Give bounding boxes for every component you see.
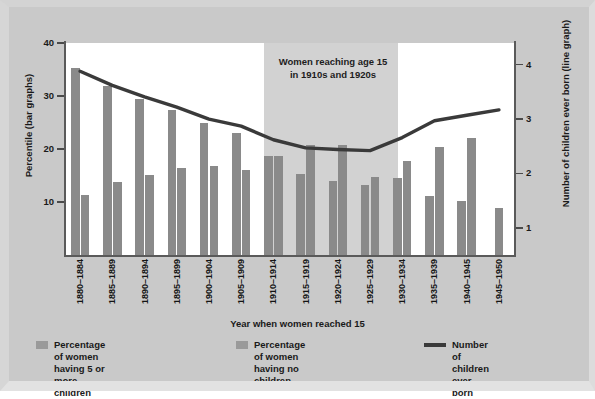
x-axis-tick-label: 1920–1924: [333, 259, 343, 304]
legend-label: Percentage of women having 5 or more chi…: [54, 339, 105, 399]
x-axis-tick: 1900–1904: [203, 259, 215, 311]
x-axis-tick: 1890–1894: [139, 259, 151, 311]
y-axis-right-line: [514, 41, 516, 257]
y-axis-right-tick-label: 2: [526, 167, 531, 178]
x-axis-tick: 1925–1929: [364, 259, 376, 311]
x-axis-tick-label: 1890–1894: [140, 259, 150, 304]
y-axis-left-title: Percentile (bar graphs): [23, 36, 34, 216]
x-axis-tick-label: 1880–1884: [75, 259, 85, 304]
y-axis-left-tick: [57, 148, 64, 150]
y-axis-right-tick-label: 1: [526, 222, 531, 233]
y-axis-left-tick-label: 30: [32, 90, 54, 101]
x-axis-tick-label: 1925–1929: [365, 259, 375, 304]
y-axis-right-tick: [516, 173, 523, 175]
line-swatch-icon: [424, 343, 446, 347]
x-axis-tick: 1940–1945: [461, 259, 473, 311]
bar-swatch-icon: [236, 341, 248, 349]
y-axis-left-tick: [57, 201, 64, 203]
x-axis-tick-label: 1940–1945: [462, 259, 472, 304]
x-axis-tick-label: 1905–1909: [236, 259, 246, 304]
chart-legend: Percentage of women having 5 or more chi…: [36, 339, 566, 373]
x-axis-tick: 1930–1934: [396, 259, 408, 311]
x-axis-tick: 1945–1950: [493, 259, 505, 311]
x-axis-title: Year when women reached 15: [0, 318, 595, 329]
y-axis-left-tick-label: 10: [32, 196, 54, 207]
y-axis-left-line: [64, 41, 66, 257]
y-axis-right-tick: [516, 227, 523, 229]
x-axis-tick: 1935–1939: [428, 259, 440, 311]
x-axis-tick: 1880–1884: [74, 259, 86, 311]
y-axis-right-tick: [516, 64, 523, 66]
x-axis-tick-label: 1895–1899: [172, 259, 182, 304]
x-axis-tick: 1910–1914: [267, 259, 279, 311]
x-axis-line: [64, 255, 516, 257]
x-axis-tick-label: 1885–1889: [107, 259, 117, 304]
x-axis-tick-label: 1945–1950: [494, 259, 504, 304]
bar-swatch-icon: [36, 341, 48, 349]
y-axis-left-tick-label: 40: [32, 37, 54, 48]
x-axis-tick: 1915–1919: [300, 259, 312, 311]
line-series-children-ever-born: [64, 43, 515, 255]
x-axis-tick-label: 1900–1904: [204, 259, 214, 304]
y-axis-left-tick-label: 20: [32, 143, 54, 154]
x-axis-tick: 1885–1889: [106, 259, 118, 311]
legend-label: Percentage of women having no children: [254, 339, 305, 387]
x-axis-tick: 1905–1909: [235, 259, 247, 311]
x-axis-tick-label: 1930–1934: [397, 259, 407, 304]
x-axis-tick-label: 1910–1914: [268, 259, 278, 304]
y-axis-right-tick-label: 3: [526, 113, 531, 124]
y-axis-right-title: Number of children ever born (line graph…: [560, 4, 571, 224]
x-axis-tick: 1920–1924: [332, 259, 344, 311]
y-axis-right-tick-label: 4: [526, 59, 531, 70]
y-axis-right-tick: [516, 118, 523, 120]
legend-label: Number of children ever born: [452, 339, 489, 399]
x-axis-tick: 1895–1899: [171, 259, 183, 311]
y-axis-left-tick: [57, 95, 64, 97]
y-axis-left-tick: [57, 42, 64, 44]
x-axis-tick-label: 1915–1919: [301, 259, 311, 304]
x-axis-tick-label: 1935–1939: [429, 259, 439, 304]
